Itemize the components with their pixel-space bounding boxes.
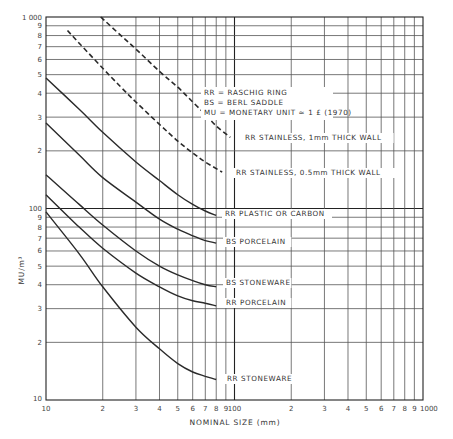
y-tick-label: 6 [38, 247, 43, 255]
y-axis-ticks: 1023456789100234567891 000 [22, 14, 43, 404]
y-tick-label: 2 [38, 339, 42, 347]
x-tick-label: 5 [176, 405, 180, 413]
x-tick-label: 7 [203, 405, 207, 413]
x-tick-label: 6 [190, 405, 195, 413]
y-tick-label: 2 [38, 147, 42, 155]
x-tick-label: 8 [214, 405, 218, 413]
x-tick-label: 1000 [420, 405, 438, 413]
y-tick-label: 1 000 [22, 14, 42, 22]
y-tick-label: 8 [38, 224, 42, 232]
curve-5 [46, 195, 216, 306]
y-tick-label: 5 [38, 263, 42, 271]
y-tick-label: 100 [29, 205, 42, 213]
x-tick-label: 6 [379, 405, 384, 413]
y-tick-label: 7 [38, 235, 42, 243]
x-axis-ticks: 1023456789100234567891000 [42, 405, 438, 413]
series-labels: RR STAINLESS, 1mm THICK WALLRR STAINLESS… [222, 133, 395, 384]
y-tick-label: 6 [38, 56, 43, 64]
curve-2 [46, 78, 216, 215]
y-tick-label: 3 [38, 305, 42, 313]
series-label: RR STAINLESS, 0.5mm THICK WALL [236, 168, 381, 177]
y-tick-label: 10 [33, 395, 42, 403]
x-tick-label: 10 [42, 405, 51, 413]
y-tick-label: 9 [38, 22, 42, 30]
y-tick-label: 8 [38, 32, 42, 40]
y-tick-label: 3 [38, 114, 42, 122]
x-tick-label: 3 [322, 405, 326, 413]
y-tick-label: 5 [38, 71, 42, 79]
series-label: BS PORCELAIN [226, 237, 286, 246]
x-tick-label: 4 [346, 405, 351, 413]
y-tick-label: 9 [38, 214, 42, 222]
series-label: BS STONEWARE [226, 278, 291, 287]
y-tick-label: 4 [38, 90, 43, 98]
x-tick-label: 4 [157, 405, 162, 413]
legend-notes: RR = RASCHIG RINGBS = BERL SADDLEMU = MO… [201, 87, 352, 120]
x-tick-label: 2 [289, 405, 293, 413]
curve-3 [46, 123, 216, 243]
x-tick-label: 5 [364, 405, 368, 413]
series-label: RR STONEWARE [227, 374, 292, 383]
x-axis-label: NOMINAL SIZE (mm) [190, 418, 281, 427]
y-axis-label: MU/m³ [17, 256, 26, 285]
legend-note: RR = RASCHIG RING [204, 88, 287, 97]
x-tick-label: 100 [228, 405, 241, 413]
y-tick-label: 4 [38, 281, 43, 289]
x-tick-label: 9 [412, 405, 416, 413]
curve-6 [46, 212, 216, 380]
y-tick-label: 7 [38, 43, 42, 51]
x-tick-label: 2 [101, 405, 105, 413]
data-curves [46, 17, 230, 380]
legend-note: MU = MONETARY UNIT ≈ 1 £ (1970) [204, 108, 352, 117]
series-label: RR PORCELAIN [226, 298, 286, 307]
series-label: RR PLASTIC OR CARBON [225, 209, 325, 218]
chart: 1023456789100234567891000 10234567891002… [0, 0, 453, 439]
x-tick-label: 8 [402, 405, 406, 413]
x-tick-label: 7 [392, 405, 396, 413]
x-tick-label: 3 [134, 405, 138, 413]
series-label: RR STAINLESS, 1mm THICK WALL [245, 133, 382, 142]
legend-note: BS = BERL SADDLE [204, 98, 284, 107]
